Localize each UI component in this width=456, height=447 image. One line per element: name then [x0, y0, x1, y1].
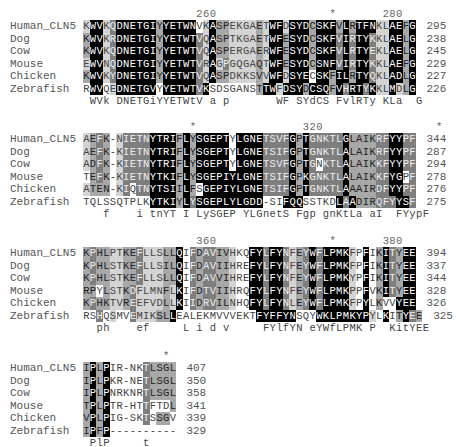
residue: -: [110, 146, 117, 159]
residue: I: [163, 260, 170, 273]
residue: E: [256, 33, 263, 46]
species-label: Cow: [10, 45, 82, 58]
residue: N: [110, 387, 117, 400]
residue: P: [223, 58, 230, 71]
residue: K: [123, 285, 130, 298]
residue: F: [329, 83, 336, 96]
residue: G: [229, 83, 236, 96]
residue: M: [336, 260, 343, 273]
residue: Q: [296, 196, 303, 209]
residue: L: [323, 247, 330, 260]
residue: E: [283, 45, 290, 58]
residue: P: [90, 362, 97, 375]
residue: G: [229, 58, 236, 71]
residue: P: [403, 158, 410, 171]
residue: P: [103, 387, 110, 400]
residue: I: [170, 183, 177, 196]
residue: V: [209, 297, 216, 310]
residue: F: [249, 297, 256, 310]
residue: I: [83, 387, 90, 400]
residue: D: [216, 83, 223, 96]
residue: T: [389, 285, 396, 298]
residue: L: [96, 412, 103, 425]
residue: P: [356, 260, 363, 273]
residue: T: [190, 70, 197, 83]
residue: S: [156, 310, 163, 323]
residue: F: [316, 297, 323, 310]
residue: P: [296, 183, 303, 196]
residue: Y: [396, 285, 403, 298]
residue: S: [316, 45, 323, 58]
residue: T: [389, 272, 396, 285]
residue: Y: [156, 70, 163, 83]
residue: N: [123, 58, 130, 71]
end-position: 341: [186, 400, 206, 413]
residue: I: [83, 375, 90, 388]
residue: E: [403, 247, 410, 260]
residue: V: [96, 58, 103, 71]
residue: G: [409, 83, 416, 96]
residue: E: [256, 146, 263, 159]
residue: E: [130, 20, 137, 33]
residue: F: [283, 146, 290, 159]
residue: E: [369, 45, 376, 58]
residue: Y: [363, 58, 370, 71]
residue: Y: [296, 83, 303, 96]
residue: Y: [363, 70, 370, 83]
residue: E: [170, 58, 177, 71]
residue: R: [203, 58, 210, 71]
residue: K: [343, 285, 350, 298]
sequence: KWVKQDNETGIYYETWTVQASPERGAERWFESYDCSKFVL…: [83, 45, 416, 58]
residue: S: [110, 310, 117, 323]
residue: Y: [256, 247, 263, 260]
residue: H: [229, 272, 236, 285]
sequence: TPLPTR-HTTFTDL: [83, 400, 176, 413]
residue: D: [396, 83, 403, 96]
residue: F: [249, 285, 256, 298]
residue: L: [150, 260, 157, 273]
residue: K: [83, 247, 90, 260]
residue: K: [103, 20, 110, 33]
residue: G: [409, 58, 416, 71]
residue: E: [296, 297, 303, 310]
residue: D: [156, 297, 163, 310]
residue: N: [249, 171, 256, 184]
residue: T: [136, 133, 143, 146]
residue: Y: [229, 158, 236, 171]
residue: S: [316, 58, 323, 71]
residue: A: [83, 158, 90, 171]
residue: K: [103, 171, 110, 184]
residue: D: [130, 285, 137, 298]
residue: A: [343, 183, 350, 196]
residue: Y: [403, 310, 410, 323]
species-label: Dog: [10, 33, 82, 46]
residue: L: [349, 171, 356, 184]
end-position: 295: [427, 20, 447, 33]
residue: T: [176, 33, 183, 46]
residue: I: [170, 171, 177, 184]
residue: I: [383, 247, 390, 260]
residue: L: [349, 146, 356, 159]
residue: K: [123, 272, 130, 285]
residue: T: [110, 297, 117, 310]
residue: N: [316, 133, 323, 146]
residue: F: [283, 133, 290, 146]
residue: L: [190, 310, 197, 323]
residue: F: [409, 133, 416, 146]
residue: Q: [236, 58, 243, 71]
residue: Y: [276, 285, 283, 298]
residue: Y: [163, 45, 170, 58]
residue: F: [176, 171, 183, 184]
residue: Y: [163, 20, 170, 33]
residue: N: [289, 310, 296, 323]
residue: A: [83, 146, 90, 159]
end-position: 344: [427, 272, 447, 285]
residue: I: [389, 310, 396, 323]
residue: V: [336, 83, 343, 96]
residue: S: [289, 20, 296, 33]
residue: F: [383, 133, 390, 146]
residue: E: [403, 297, 410, 310]
residue: N: [130, 387, 137, 400]
end-position: 278: [427, 171, 447, 184]
residue: K: [83, 297, 90, 310]
